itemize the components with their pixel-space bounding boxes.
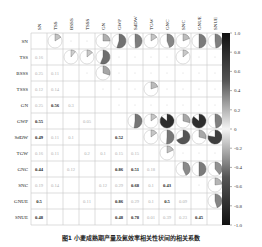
coefficient-value: 0.25 — [35, 103, 44, 108]
colorbar-tick-label: 0.6 — [234, 69, 241, 74]
pie-glyph — [144, 34, 158, 48]
row-label: GNUE — [14, 199, 28, 204]
column-label: TSSS — [85, 18, 90, 30]
coefficient-value: 0.51 — [131, 167, 140, 172]
coefficient-value: 0.23 — [179, 215, 188, 220]
colorbar-tick-label: 0.4 — [234, 88, 241, 93]
column-label: TSS — [53, 21, 58, 30]
row-label: BSSS — [16, 71, 28, 76]
coefficient-value: 0.14 — [51, 183, 60, 188]
pie-glyph — [208, 130, 222, 144]
pie-glyph — [208, 194, 222, 208]
column-label: GWP — [117, 19, 122, 30]
coefficient-value: 0.15 — [131, 151, 140, 156]
pie-glyph — [112, 34, 126, 48]
pie-glyph — [48, 34, 62, 48]
coefficient-value: 0.05 — [83, 119, 92, 124]
coefficient-value: 0.18 — [147, 167, 156, 172]
coefficient-value: 0.86 — [115, 167, 124, 172]
coefficient-value: 0.48 — [35, 215, 44, 220]
row-label: TSS — [19, 55, 28, 60]
coefficient-value: 0.1 — [68, 135, 74, 140]
colorbar-tick-label: -0.8 — [234, 204, 242, 209]
coefficient-value: 0.19 — [35, 183, 44, 188]
coefficient-value: 0.43 — [163, 183, 172, 188]
pie-glyph — [144, 130, 158, 144]
coefficient-value: 0.11 — [51, 135, 60, 140]
coefficient-value: 0.49 — [35, 135, 44, 140]
colorbar-tick-label: -0.6 — [234, 184, 242, 189]
colorbar-tick-label: 0.8 — [234, 50, 241, 55]
pie-glyph — [176, 162, 190, 176]
coefficient-value: 0.12 — [67, 167, 76, 172]
colorbar-tick-label: -0.4 — [234, 165, 242, 170]
row-label: GWP — [17, 119, 28, 124]
row-label: GN — [21, 103, 29, 108]
coefficient-value: 0.5 — [164, 199, 170, 204]
pie-glyph — [160, 146, 174, 160]
coefficient-value: 0.11 — [83, 199, 92, 204]
coefficient-value: 0.14 — [51, 87, 60, 92]
coefficient-value: 0.5 — [36, 199, 42, 204]
column-label: BSSS — [69, 18, 74, 30]
colorbar-tick-label: 1.0 — [234, 31, 241, 36]
column-label: SdDW — [133, 16, 138, 30]
column-label: SNC — [181, 20, 186, 30]
coefficient-value: 0.1 — [148, 183, 154, 188]
pie-glyph — [192, 34, 206, 48]
pie-glyph — [160, 130, 174, 144]
pie-glyph — [208, 34, 222, 48]
coefficient-value: 0.16 — [35, 55, 44, 60]
column-label: SNUE — [213, 17, 218, 30]
coefficient-value: 0.78 — [131, 215, 140, 220]
column-label: GNUE — [197, 16, 202, 30]
pie-glyph — [208, 114, 222, 128]
pie-glyph — [176, 130, 190, 144]
column-label: TGW — [149, 18, 154, 30]
pie-glyph — [96, 34, 110, 48]
row-label: SN — [22, 39, 29, 44]
coefficient-value: 0.48 — [115, 215, 124, 220]
coefficient-value: 0.11 — [51, 151, 60, 156]
coefficient-value: 0.16 — [35, 151, 44, 156]
coefficient-value: 0.55 — [35, 119, 44, 124]
colorbar — [222, 33, 230, 225]
row-label: SdDW — [14, 135, 28, 140]
column-label: GN — [101, 22, 106, 30]
coefficient-value: 0.44 — [35, 167, 44, 172]
coefficient-value: 0.12 — [35, 87, 44, 92]
pie-glyph — [144, 114, 158, 128]
coefficient-value: 0.56 — [51, 103, 60, 108]
pie-glyph — [128, 114, 142, 128]
pie-glyph — [192, 162, 206, 176]
pie-glyph — [80, 50, 94, 64]
pie-glyph — [176, 114, 190, 128]
colorbar-tick-label: 0 — [234, 127, 237, 132]
pie-glyph — [208, 162, 222, 176]
coefficient-value: 0.29 — [131, 199, 140, 204]
row-label: TGW — [17, 151, 29, 156]
coefficient-value: 0.68 — [131, 183, 140, 188]
coefficient-value: 0.39 — [163, 215, 172, 220]
pie-glyph — [176, 34, 190, 48]
coefficient-value: 0.45 — [195, 215, 204, 220]
coefficient-value: 0.3 — [68, 103, 74, 108]
pie-glyph — [96, 50, 110, 64]
pie-glyph — [64, 50, 78, 64]
row-label: GNC — [17, 167, 28, 172]
matrix-grid — [31, 33, 223, 225]
coefficient-value: 0.15 — [115, 151, 124, 156]
pie-glyph — [208, 178, 222, 192]
coefficient-value: 0.52 — [115, 135, 124, 140]
coefficient-value: 0.86 — [115, 199, 124, 204]
column-label: SN — [37, 23, 42, 30]
column-label: GNC — [165, 19, 170, 30]
row-label: SNUE — [15, 215, 28, 220]
pie-glyph — [192, 114, 206, 128]
correlation-matrix-chart: SNSNTSSTSSBSSSBSSSTSSSTSSSGNGNGWPGWPSdDW… — [0, 0, 262, 247]
pie-glyph — [96, 66, 110, 80]
row-label: TSSS — [17, 87, 29, 92]
coefficient-value: 0.1 — [100, 151, 106, 156]
coefficient-value: 0.25 — [35, 71, 44, 76]
coefficient-value: 0.29 — [115, 183, 124, 188]
